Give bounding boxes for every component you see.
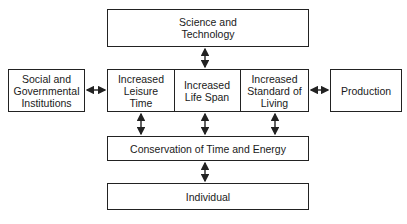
connector-arrows: [0, 0, 407, 224]
